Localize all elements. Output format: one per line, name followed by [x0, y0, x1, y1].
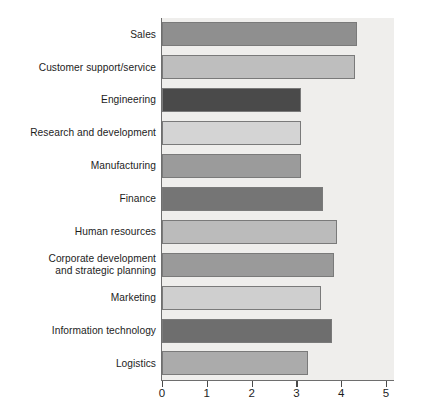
- bar: [162, 22, 357, 46]
- bar-category-label: Sales: [10, 29, 162, 41]
- bar: [162, 319, 332, 343]
- bar: [162, 253, 334, 277]
- bar-category-label: Engineering: [10, 94, 162, 106]
- bar-row: Finance: [0, 183, 429, 216]
- bar-category-label: Information technology: [10, 325, 162, 337]
- bar: [162, 187, 323, 211]
- bar-row: Logistics: [0, 347, 429, 380]
- axis-tick-label: 4: [331, 387, 351, 399]
- axis-tick-label: 5: [376, 387, 396, 399]
- bar: [162, 154, 301, 178]
- bar-category-label: Finance: [10, 193, 162, 205]
- bar: [162, 286, 321, 310]
- bar-row: Manufacturing: [0, 150, 429, 183]
- bar-row: Information technology: [0, 314, 429, 347]
- bar-row: Human resources: [0, 215, 429, 248]
- bar-row: Research and development: [0, 117, 429, 150]
- bar: [162, 351, 308, 375]
- axis-tick-label: 3: [286, 387, 306, 399]
- bar: [162, 55, 355, 79]
- axis-tick-label: 2: [242, 387, 262, 399]
- bar-category-label: Logistics: [10, 358, 162, 370]
- bar-row: Sales: [0, 18, 429, 51]
- axis-tick-label: 0: [152, 387, 172, 399]
- axis-tick-label: 1: [197, 387, 217, 399]
- bar-row: Corporate development and strategic plan…: [0, 248, 429, 281]
- bar-row: Customer support/service: [0, 51, 429, 84]
- bar-category-label: Manufacturing: [10, 160, 162, 172]
- bar-row: Engineering: [0, 84, 429, 117]
- bar-category-label: Human resources: [10, 226, 162, 238]
- bar: [162, 88, 301, 112]
- bar-category-label: Customer support/service: [10, 62, 162, 74]
- bar: [162, 220, 337, 244]
- bar: [162, 121, 301, 145]
- bar-rows-container: SalesCustomer support/serviceEngineering…: [0, 18, 429, 380]
- bar-category-label: Corporate development and strategic plan…: [10, 253, 162, 276]
- value-axis-ticks: 012345: [0, 381, 429, 411]
- bar-row: Marketing: [0, 281, 429, 314]
- bar-category-label: Marketing: [10, 292, 162, 304]
- horizontal-bar-chart: SalesCustomer support/serviceEngineering…: [0, 0, 429, 418]
- bar-category-label: Research and development: [10, 127, 162, 139]
